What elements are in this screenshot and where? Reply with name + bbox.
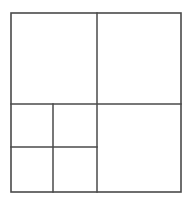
cell-top-right (97, 13, 181, 104)
cell-bottom-right-large (97, 104, 181, 192)
cell-bottom-center (53, 147, 97, 192)
cell-regions (11, 13, 181, 192)
cell-mid-center (53, 104, 97, 147)
rectangle-partition-figure (0, 0, 193, 202)
cell-mid-left (11, 104, 53, 147)
cell-top-left (11, 13, 97, 104)
cell-bottom-left (11, 147, 53, 192)
partition-svg (0, 0, 193, 202)
